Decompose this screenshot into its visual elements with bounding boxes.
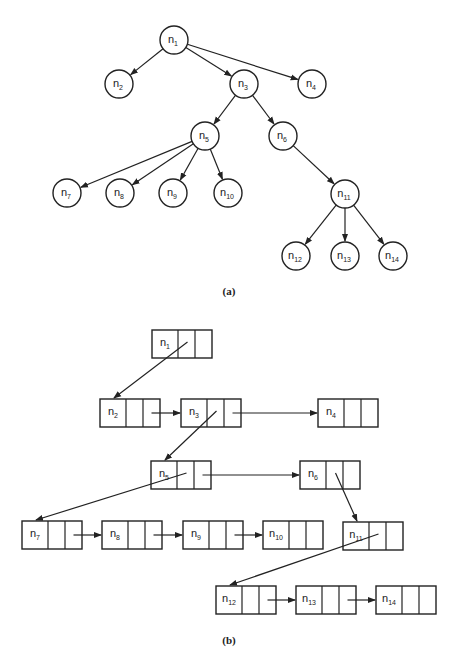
record-n13: n13 (296, 586, 356, 614)
tree-node-n13: n13 (331, 242, 359, 270)
tree-node-n14: n14 (379, 242, 407, 270)
edge-n3-n6 (252, 95, 274, 124)
caption-a: (a) (223, 285, 236, 298)
record-n1: n1 (152, 330, 212, 358)
record-n7: n7 (22, 521, 82, 549)
record-n10: n10 (263, 521, 323, 549)
tree-node-n1: n1 (160, 26, 188, 54)
edge-n3-n5 (214, 95, 236, 124)
tree-node-n8: n8 (106, 179, 134, 207)
record-n12: n12 (216, 586, 276, 614)
record-n3: n3 (181, 399, 241, 427)
record-n6: n6 (300, 461, 360, 489)
child-pointer-n5-n7 (36, 473, 187, 520)
tree-figure: n1n2n3n4n5n6n7n8n9n10n11n12n13n14 (a) n1… (0, 0, 457, 669)
child-pointer-n1-n2 (114, 342, 188, 398)
record-n4: n4 (318, 399, 378, 427)
record-n14: n14 (376, 586, 436, 614)
tree-node-n12: n12 (282, 242, 310, 270)
tree-node-n3: n3 (230, 70, 258, 98)
caption-b: (b) (222, 634, 236, 647)
general-tree-diagram: n1n2n3n4n5n6n7n8n9n10n11n12n13n14 (53, 26, 407, 270)
edge-n11-n12 (305, 205, 336, 244)
tree-node-n9: n9 (159, 179, 187, 207)
leftmost-child-right-sibling-diagram: n1n2n3n4n5n6n7n8n9n10n11n12n13n14 (22, 330, 436, 614)
tree-node-n11: n11 (331, 180, 359, 208)
tree-node-n7: n7 (53, 179, 81, 207)
record-n8: n8 (102, 521, 162, 549)
tree-node-n2: n2 (105, 70, 133, 98)
record-n9: n9 (183, 521, 243, 549)
edge-n1-n3 (186, 47, 231, 76)
edge-n6-n11 (293, 146, 334, 184)
record-n2: n2 (100, 399, 160, 427)
tree-node-n5: n5 (191, 122, 219, 150)
edge-n11-n14 (354, 205, 384, 244)
edge-n5-n10 (210, 149, 222, 179)
edge-n5-n8 (132, 144, 193, 185)
edge-n1-n2 (131, 49, 163, 75)
tree-node-n6: n6 (269, 122, 297, 150)
edge-n5-n9 (180, 148, 198, 180)
tree-node-n4: n4 (298, 70, 326, 98)
tree-node-n10: n10 (214, 179, 242, 207)
